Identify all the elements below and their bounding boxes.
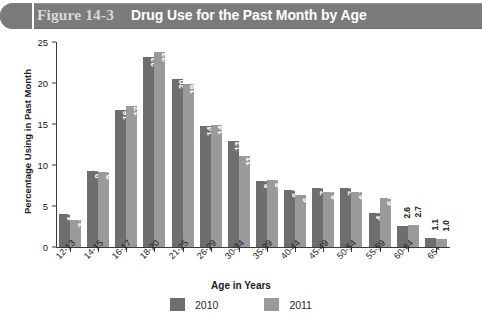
legend-swatch (170, 298, 185, 311)
legend-item-2010: 2010 (170, 298, 218, 311)
header-rounded-cap (0, 3, 34, 29)
y-axis-title: Percentage Using in Past Month (22, 47, 33, 237)
bar-2011-16-17: 17.2 (126, 106, 137, 247)
bar-group: 4.16.0 (366, 42, 394, 247)
legend-label: 2011 (289, 299, 312, 311)
chart-legend: 20102011 (0, 298, 482, 311)
bar-2010-18-20: 23.2 (143, 57, 154, 247)
legend-label: 2010 (195, 299, 218, 311)
bar-2011-26-29: 14.9 (211, 125, 222, 247)
bar-group: 9.39.2 (84, 42, 112, 247)
bar-group: 23.223.8 (140, 42, 168, 247)
bar-group: 7.26.7 (309, 42, 337, 247)
figure-number-label: Figure 14-3 (37, 6, 114, 24)
bar-2011-35-39: 8.2 (267, 180, 278, 247)
bar-group: 4.03.3 (56, 42, 84, 247)
figure-header-banner: Figure 14-3 Drug Use for the Past Month … (0, 3, 482, 29)
legend-item-2011: 2011 (264, 298, 312, 311)
bar-2010-26-29: 14.8 (200, 126, 211, 247)
bar-group: 7.26.7 (337, 42, 365, 247)
bar-2011-21-25: 19.9 (183, 84, 194, 247)
bar-2011-14-15: 9.2 (98, 172, 109, 247)
bar-value-label: 1.0 (441, 220, 451, 231)
legend-swatch (264, 298, 279, 311)
bar-group: 1.11.0 (422, 42, 450, 247)
x-axis-title: Age in Years (0, 280, 482, 291)
bar-groups: 4.03.39.39.216.717.223.223.820.519.914.8… (56, 42, 450, 247)
bar-2010-14-15: 9.3 (87, 171, 98, 247)
chart-area: Percentage Using in Past Month 051015202… (0, 32, 482, 335)
bar-2011-18-20: 23.8 (154, 52, 165, 247)
bar-2010-35-39: 8.1 (256, 181, 267, 247)
bar-2010-16-17: 16.7 (115, 110, 126, 247)
bar-2010-21-25: 20.5 (172, 79, 183, 247)
bar-group: 12.911.1 (225, 42, 253, 247)
bar-group: 14.814.9 (197, 42, 225, 247)
bar-group: 16.717.2 (112, 42, 140, 247)
bar-2011-30-34: 11.1 (239, 156, 250, 247)
bar-2010-30-34: 12.9 (228, 141, 239, 247)
bar-group: 2.62.7 (394, 42, 422, 247)
bar-group: 20.519.9 (169, 42, 197, 247)
bar-group: 6.96.4 (281, 42, 309, 247)
bar-value-label: 12.9 (233, 135, 243, 151)
bar-group: 8.18.2 (253, 42, 281, 247)
figure-title: Drug Use for the Past Month by Age (131, 7, 367, 23)
bar-value-label: 2.6 (402, 207, 412, 218)
bar-value-label: 1.1 (430, 219, 440, 230)
